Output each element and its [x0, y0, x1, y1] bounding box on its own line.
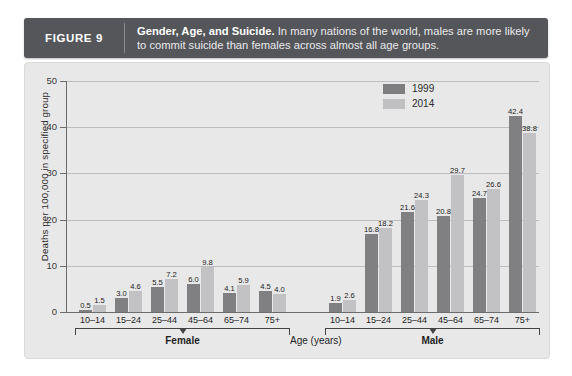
bar: [151, 287, 164, 312]
bar: [273, 294, 286, 312]
y-tick: [60, 173, 67, 174]
x-axis-category-label: 10–14: [323, 315, 362, 325]
bar: [365, 234, 378, 312]
bar-value-label: 2.6: [340, 291, 359, 300]
bar: [487, 189, 500, 312]
bar: [187, 284, 200, 312]
figure-page: FIGURE 9 Gender, Age, and Suicide. In ma…: [0, 0, 572, 376]
bar: [129, 291, 142, 312]
y-tick: [60, 312, 67, 313]
bar: [509, 116, 522, 312]
x-axis-category-label: 65–74: [217, 315, 256, 325]
bar: [329, 303, 342, 312]
bar-value-label: 42.4: [506, 107, 525, 116]
x-axis-category-label: 25–44: [145, 315, 184, 325]
bar: [223, 293, 236, 312]
x-axis-category-label: 45–64: [431, 315, 470, 325]
x-axis-category-label: 45–64: [181, 315, 220, 325]
y-axis-tick-label: 50: [35, 75, 57, 86]
bar: [473, 198, 486, 312]
bar-value-label: 38.8: [520, 124, 539, 133]
bar: [259, 291, 272, 312]
chart-panel: Deaths per 100,000 in specified group 01…: [24, 62, 550, 359]
bar-value-label: 5.9: [234, 276, 253, 285]
y-axis-tick-label: 40: [35, 121, 57, 132]
x-axis-category-label: 15–24: [109, 315, 148, 325]
x-axis-category-label: 75+: [503, 315, 542, 325]
bar: [93, 305, 106, 312]
group-label-female: Female: [75, 335, 290, 346]
y-tick: [60, 127, 67, 128]
bar-value-label: 4.0: [270, 285, 289, 294]
y-axis-tick-label: 30: [35, 167, 57, 178]
x-axis-category-label: 25–44: [395, 315, 434, 325]
bar: [79, 310, 92, 312]
bar: [343, 300, 356, 312]
bar: [201, 267, 214, 312]
y-axis-tick-label: 10: [35, 260, 57, 271]
bar: [237, 285, 250, 312]
figure-caption-bar: FIGURE 9 Gender, Age, and Suicide. In ma…: [24, 18, 548, 58]
group-label-male: Male: [325, 335, 540, 346]
x-axis-category-label: 75+: [253, 315, 292, 325]
bar-value-label: 26.6: [484, 180, 503, 189]
bar: [379, 228, 392, 312]
bar: [437, 216, 450, 312]
y-tick: [60, 220, 67, 221]
bar: [415, 200, 428, 312]
figure-number: FIGURE 9: [24, 18, 124, 58]
x-axis-title: Age (years): [290, 335, 325, 346]
bar: [115, 298, 128, 312]
figure-title: Gender, Age, and Suicide.: [137, 25, 275, 37]
bar: [165, 279, 178, 312]
bar-value-label: 4.6: [126, 282, 145, 291]
bar: [523, 133, 536, 312]
x-axis-line: [66, 312, 539, 313]
bar: [451, 175, 464, 312]
figure-caption-text: Gender, Age, and Suicide. In many nation…: [125, 18, 548, 58]
y-tick: [60, 81, 67, 82]
y-axis-tick-label: 0: [35, 306, 57, 317]
bar-value-label: 1.5: [90, 296, 109, 305]
bar-value-label: 24.3: [412, 191, 431, 200]
bar: [401, 212, 414, 312]
bars-layer: 0.51.53.04.65.57.26.09.84.15.94.54.01.92…: [67, 81, 539, 312]
y-axis-tick-label: 20: [35, 214, 57, 225]
x-axis-category-label: 65–74: [467, 315, 506, 325]
bar-value-label: 29.7: [448, 166, 467, 175]
bar-value-label: 18.2: [376, 219, 395, 228]
x-axis-category-label: 15–24: [359, 315, 398, 325]
x-axis-category-label: 10–14: [73, 315, 112, 325]
bar-value-label: 7.2: [162, 270, 181, 279]
y-tick: [60, 266, 67, 267]
bar-value-label: 9.8: [198, 258, 217, 267]
chart-plot-area: Deaths per 100,000 in specified group 01…: [25, 63, 549, 358]
